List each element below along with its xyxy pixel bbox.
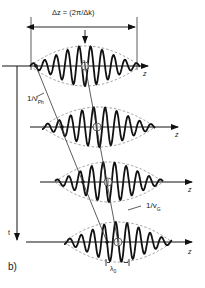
group-label-leader xyxy=(128,206,141,210)
phase-velocity-line xyxy=(36,66,107,242)
phase-velocity-label: 1/vPh xyxy=(27,95,44,105)
z-axis-label-4: z xyxy=(188,248,192,255)
wave-packet-1 xyxy=(2,46,148,86)
group-velocity-label: 1/vG xyxy=(146,202,161,212)
z-axis-label-3: z xyxy=(188,186,192,193)
wave-packet-4 xyxy=(26,222,192,262)
group-velocity-line xyxy=(84,60,118,242)
time-axis-label: t xyxy=(8,229,10,236)
wave-packet-2 xyxy=(30,107,178,147)
wave-packet-3 xyxy=(40,162,192,202)
z-axis-label-1: z xyxy=(143,70,147,77)
panel-label: b) xyxy=(8,262,17,272)
z-axis-label-2: z xyxy=(175,131,179,138)
delta-z-label: Δz = (2π/Δk) xyxy=(52,9,95,17)
wave-packet-diagram xyxy=(0,0,205,288)
wavelength-label: λ0 xyxy=(110,265,116,274)
